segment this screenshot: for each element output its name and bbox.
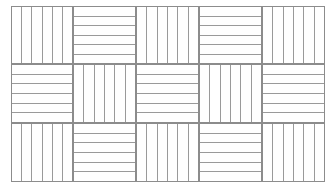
stripe-stack-vertical — [137, 7, 198, 63]
stripe — [52, 124, 62, 181]
stripe — [263, 74, 324, 84]
stripe-stack-vertical — [74, 65, 135, 122]
stripe — [283, 124, 293, 181]
stripe — [62, 7, 72, 63]
stripe — [104, 65, 114, 122]
stripe-stack-vertical — [12, 7, 72, 63]
tile-r3-c2 — [73, 123, 136, 182]
stripe — [263, 112, 324, 122]
stripe — [263, 83, 324, 93]
tile-r3-c4 — [199, 123, 262, 182]
stripe — [74, 142, 135, 152]
stripe — [21, 124, 31, 181]
stripe — [200, 142, 261, 152]
stripe — [263, 103, 324, 113]
stripe — [314, 7, 324, 63]
stripe — [74, 16, 135, 26]
stripe — [146, 124, 156, 181]
stripe — [74, 65, 83, 122]
stripe — [137, 7, 146, 63]
stripe — [303, 124, 313, 181]
stripe — [12, 103, 72, 113]
tile-r2-c4 — [199, 64, 262, 123]
stripe — [157, 124, 167, 181]
tile-r2-c5 — [262, 64, 325, 123]
stripe — [74, 124, 135, 133]
stripe — [177, 7, 187, 63]
stripe-stack-vertical — [200, 65, 261, 122]
tile-r1-c1 — [11, 6, 73, 64]
stripe — [272, 124, 282, 181]
stripe — [137, 112, 198, 122]
stripe — [12, 112, 72, 122]
stripe-stack-vertical — [263, 124, 324, 181]
stripe — [200, 35, 261, 45]
stripe — [200, 133, 261, 143]
stripe — [94, 65, 104, 122]
tile-r1-c5 — [262, 6, 325, 64]
stripe — [137, 74, 198, 84]
stripe — [272, 7, 282, 63]
stripe — [12, 7, 21, 63]
stripe — [74, 25, 135, 35]
stripe — [137, 65, 198, 74]
stripe — [263, 65, 324, 74]
stripe — [12, 83, 72, 93]
stripe — [157, 7, 167, 63]
pattern-canvas — [0, 0, 335, 195]
stripe — [200, 65, 209, 122]
stripe — [74, 54, 135, 64]
stripe — [200, 54, 261, 64]
tile-r2-c2 — [73, 64, 136, 123]
stripe — [125, 65, 135, 122]
stripe — [200, 7, 261, 16]
stripe — [200, 171, 261, 181]
stripe — [12, 65, 72, 74]
stripe — [74, 162, 135, 172]
tile-r2-c1 — [11, 64, 73, 123]
stripe — [12, 74, 72, 84]
stripe — [220, 65, 230, 122]
stripe-stack-vertical — [12, 124, 72, 181]
stripe — [167, 7, 177, 63]
stripe — [200, 124, 261, 133]
stripe — [263, 93, 324, 103]
stripe — [200, 25, 261, 35]
stripe — [74, 152, 135, 162]
stripe — [293, 124, 303, 181]
stripe — [83, 65, 93, 122]
stripe — [62, 124, 72, 181]
stripe — [146, 7, 156, 63]
stripe — [74, 7, 135, 16]
stripe — [200, 162, 261, 172]
tile-r1-c2 — [73, 6, 136, 64]
tile-r1-c4 — [199, 6, 262, 64]
stripe-stack-vertical — [263, 7, 324, 63]
stripe — [137, 124, 146, 181]
stripe — [240, 65, 250, 122]
stripe-stack-horizontal — [74, 7, 135, 63]
stripe-stack-horizontal — [74, 124, 135, 181]
stripe — [74, 44, 135, 54]
stripe — [137, 83, 198, 93]
stripe — [200, 44, 261, 54]
tile-r3-c5 — [262, 123, 325, 182]
tile-r1-c3 — [136, 6, 199, 64]
stripe — [74, 171, 135, 181]
stripe — [42, 7, 52, 63]
stripe — [200, 16, 261, 26]
stripe — [263, 7, 272, 63]
stripe — [303, 7, 313, 63]
stripe-stack-horizontal — [137, 65, 198, 122]
stripe — [177, 124, 187, 181]
stripe — [21, 7, 31, 63]
tile-r3-c3 — [136, 123, 199, 182]
stripe — [42, 124, 52, 181]
stripe — [137, 93, 198, 103]
stripe — [263, 124, 272, 181]
stripe — [74, 133, 135, 143]
stripe — [74, 35, 135, 45]
stripe — [188, 7, 198, 63]
tile-r3-c1 — [11, 123, 73, 182]
stripe — [12, 93, 72, 103]
